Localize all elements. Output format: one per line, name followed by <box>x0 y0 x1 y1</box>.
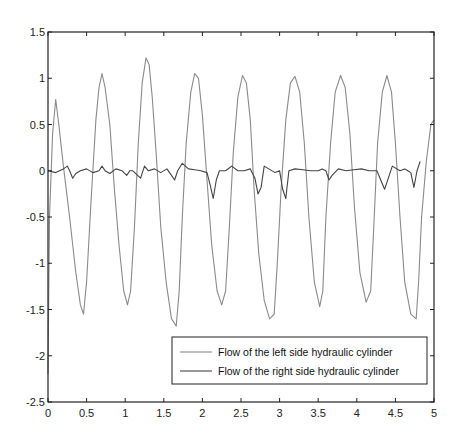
y-tick-label: 0.5 <box>30 119 45 131</box>
y-axis-tick-labels: 1.510.50-0.5-1-1.5-2-2.5 <box>26 26 45 408</box>
legend: Flow of the left side hydraulic cylinder… <box>172 337 427 384</box>
x-tick-label: 3.5 <box>311 407 326 419</box>
y-tick-label: -0.5 <box>26 211 45 223</box>
legend-label-right: Flow of the right side hydraulic cylinde… <box>218 365 399 377</box>
x-tick-label: 0 <box>45 407 51 419</box>
x-tick-label: 5 <box>431 407 437 419</box>
y-tick-label: 1.5 <box>30 26 45 38</box>
legend-label-left: Flow of the left side hydraulic cylinder <box>218 346 393 358</box>
x-tick-label: 2.5 <box>233 407 248 419</box>
y-tick-label: -1.5 <box>26 304 45 316</box>
y-tick-label: 1 <box>39 72 45 84</box>
x-tick-label: 3 <box>277 407 283 419</box>
y-tick-label: -2 <box>35 350 45 362</box>
y-tick-label: 0 <box>39 165 45 177</box>
x-tick-label: 1 <box>122 407 128 419</box>
x-tick-label: 2 <box>199 407 205 419</box>
x-tick-label: 1.5 <box>156 407 171 419</box>
x-tick-label: 4.5 <box>388 407 403 419</box>
series-line-0 <box>48 58 434 374</box>
y-tick-label: -1 <box>35 257 45 269</box>
y-tick-label: -2.5 <box>26 396 45 408</box>
series-line-1 <box>48 162 420 199</box>
x-tick-label: 0.5 <box>79 407 94 419</box>
x-axis-tick-labels: 00.511.522.533.544.55 <box>45 407 437 419</box>
line-chart: 00.511.522.533.544.55 1.510.50-0.5-1-1.5… <box>0 0 465 444</box>
plot-lines <box>48 58 434 374</box>
x-tick-label: 4 <box>354 407 360 419</box>
